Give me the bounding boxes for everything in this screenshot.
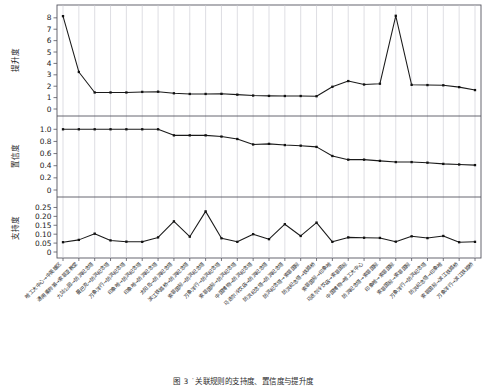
y-axis-tick-label: 1	[47, 93, 52, 102]
data-point-marker	[347, 158, 349, 160]
data-point-marker	[109, 91, 111, 93]
caption-number: 图 3	[173, 377, 188, 386]
data-point-marker	[379, 237, 381, 239]
data-point-marker	[379, 83, 381, 85]
chart-background	[0, 0, 487, 387]
data-point-marker	[125, 241, 127, 243]
data-point-marker	[363, 158, 365, 160]
data-point-marker	[62, 15, 64, 17]
data-point-marker	[300, 145, 302, 147]
y-axis-tick-label: 0.25	[35, 203, 52, 212]
data-point-marker	[236, 93, 238, 95]
data-point-marker	[173, 134, 175, 136]
data-point-marker	[220, 93, 222, 95]
y-axis-tick-label: 0	[47, 105, 52, 114]
data-point-marker	[109, 128, 111, 130]
data-point-marker	[204, 93, 206, 95]
data-point-marker	[426, 237, 428, 239]
y-axis-tick-label: 0.15	[35, 221, 52, 230]
data-point-marker	[173, 220, 175, 222]
data-point-marker	[474, 89, 476, 91]
data-point-marker	[284, 223, 286, 225]
data-point-marker	[252, 233, 254, 235]
data-point-marker	[315, 146, 317, 148]
data-point-marker	[189, 134, 191, 136]
data-point-marker	[442, 163, 444, 165]
y-axis-tick-label: 0	[47, 186, 52, 195]
data-point-marker	[347, 80, 349, 82]
data-point-marker	[331, 241, 333, 243]
y-axis-label: 提升度	[10, 48, 20, 72]
caption-text: ̇关联规则的支持度、置信度与提升度	[195, 377, 314, 386]
y-axis-tick-label: 5	[47, 48, 52, 57]
data-point-marker	[189, 236, 191, 238]
data-point-marker	[395, 15, 397, 17]
data-point-marker	[379, 160, 381, 162]
data-point-marker	[363, 83, 365, 85]
data-point-marker	[252, 94, 254, 96]
data-point-marker	[141, 91, 143, 93]
data-point-marker	[141, 128, 143, 130]
data-point-marker	[363, 237, 365, 239]
data-point-marker	[157, 91, 159, 93]
data-point-marker	[204, 210, 206, 212]
data-point-marker	[268, 95, 270, 97]
data-point-marker	[236, 138, 238, 140]
y-axis-tick-label: 3	[47, 70, 52, 79]
y-axis-label: 支持度	[10, 216, 20, 240]
data-point-marker	[331, 86, 333, 88]
data-point-marker	[458, 241, 460, 243]
y-axis-tick-label: 4	[47, 59, 52, 68]
data-point-marker	[173, 92, 175, 94]
data-point-marker	[204, 134, 206, 136]
data-point-marker	[268, 143, 270, 145]
data-point-marker	[252, 143, 254, 145]
data-point-marker	[347, 236, 349, 238]
data-point-marker	[300, 235, 302, 237]
data-point-marker	[474, 164, 476, 166]
data-point-marker	[125, 91, 127, 93]
data-point-marker	[62, 128, 64, 130]
data-point-marker	[141, 241, 143, 243]
data-point-marker	[157, 236, 159, 238]
data-point-marker	[442, 84, 444, 86]
y-axis-tick-label: 0.20	[35, 212, 52, 221]
y-axis-tick-label: 8	[47, 13, 52, 22]
association-rules-chart: 012345678提升度00.20.40.60.81.0置信度00.050.10…	[0, 0, 487, 387]
data-point-marker	[125, 128, 127, 130]
data-point-marker	[284, 144, 286, 146]
data-point-marker	[94, 91, 96, 93]
y-axis-tick-label: 0.05	[35, 239, 52, 248]
data-point-marker	[474, 241, 476, 243]
data-point-marker	[395, 161, 397, 163]
figure-caption: 图 3̇关联规则的支持度、置信度与提升度	[0, 375, 487, 386]
data-point-marker	[300, 95, 302, 97]
data-point-marker	[78, 128, 80, 130]
y-axis-tick-label: 0.10	[35, 230, 52, 239]
y-axis-label: 置信度	[10, 144, 20, 168]
y-axis-tick-label: 0.2	[40, 173, 52, 182]
data-point-marker	[268, 238, 270, 240]
y-axis-tick-label: 7	[47, 25, 52, 34]
data-point-marker	[410, 161, 412, 163]
data-point-marker	[331, 155, 333, 157]
data-point-marker	[94, 128, 96, 130]
data-point-marker	[62, 241, 64, 243]
y-axis-tick-label: 0.6	[40, 149, 52, 158]
data-point-marker	[94, 232, 96, 234]
data-point-marker	[426, 162, 428, 164]
data-point-marker	[410, 235, 412, 237]
y-axis-tick-label: 0	[47, 248, 52, 257]
data-point-marker	[109, 239, 111, 241]
data-point-marker	[410, 84, 412, 86]
data-point-marker	[157, 128, 159, 130]
y-axis-tick-label: 1.0	[40, 125, 52, 134]
data-point-marker	[78, 239, 80, 241]
y-axis-tick-label: 6	[47, 36, 52, 45]
data-point-marker	[315, 221, 317, 223]
data-point-marker	[458, 163, 460, 165]
y-axis-tick-label: 2	[47, 82, 52, 91]
y-axis-tick-label: 0.8	[40, 137, 52, 146]
data-point-marker	[236, 241, 238, 243]
data-point-marker	[315, 95, 317, 97]
